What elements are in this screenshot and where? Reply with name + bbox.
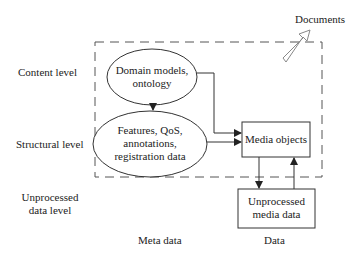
content-level-label: Content level (18, 66, 77, 79)
domain-models-text: Domain models, ontology (107, 64, 197, 90)
media-objects-line1: Media objects (242, 133, 310, 146)
unprocessed-level-line1: Unprocessed (20, 191, 80, 204)
unprocessed-media-text: Unprocessed media data (238, 195, 315, 221)
media-objects-text: Media objects (242, 133, 310, 146)
features-line3: registration data (95, 150, 205, 163)
domain-models-line2: ontology (107, 77, 197, 90)
unprocessed-level-line2: data level (20, 204, 80, 217)
documents-arrow-icon (283, 30, 310, 62)
features-line1: Features, QoS, (95, 124, 205, 137)
meta-data-label: Meta data (138, 234, 182, 247)
features-text: Features, QoS, annotations, registration… (95, 124, 205, 163)
unprocessed-level-label: Unprocessed data level (20, 191, 80, 217)
data-label: Data (264, 234, 285, 247)
unprocessed-media-line2: media data (238, 208, 315, 221)
domain-models-line1: Domain models, (107, 64, 197, 77)
unprocessed-media-line1: Unprocessed (238, 195, 315, 208)
structural-level-label: Structural level (16, 138, 84, 151)
documents-label: Documents (295, 13, 345, 26)
features-line2: annotations, (95, 137, 205, 150)
